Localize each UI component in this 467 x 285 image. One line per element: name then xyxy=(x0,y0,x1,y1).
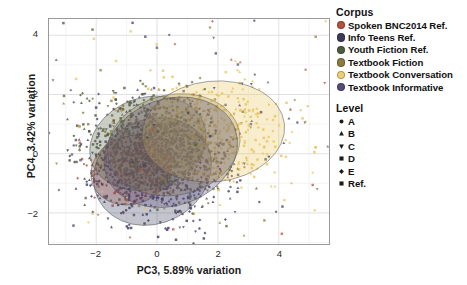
x-tick-label: −2 xyxy=(83,248,109,259)
legend-spacer xyxy=(334,93,467,102)
x-tick-label: 4 xyxy=(266,248,292,259)
legend-item-corpus[interactable]: Spoken BNC2014 Ref. xyxy=(334,19,467,31)
legend-shape-triangle-up-icon xyxy=(334,129,348,138)
y-tick-label: 0 xyxy=(16,148,38,159)
legend-group-level: ABCDERef. xyxy=(334,115,467,189)
legend-item-label: Youth Fiction Ref. xyxy=(348,44,428,55)
legend-item-label: D xyxy=(348,153,355,164)
y-axis-ticks: −2024 xyxy=(14,0,38,285)
legend-item-level[interactable]: E xyxy=(334,165,467,177)
legend-item-level[interactable]: A xyxy=(334,115,467,127)
x-tick-label: 2 xyxy=(205,248,231,259)
x-axis-ticks: −2024 xyxy=(0,248,467,264)
legend-shape-circle-icon xyxy=(334,117,348,126)
legend: Corpus Spoken BNC2014 Ref.Info Teens Ref… xyxy=(334,6,467,190)
legend-title-level: Level xyxy=(336,102,467,114)
legend-item-label: Textbook Conversation xyxy=(348,69,453,80)
legend-swatch-icon xyxy=(334,46,348,55)
legend-item-label: A xyxy=(348,116,355,127)
legend-swatch-icon xyxy=(334,83,348,92)
plot-canvas xyxy=(49,19,329,244)
legend-item-label: Ref. xyxy=(348,178,366,189)
legend-swatch-icon xyxy=(334,33,348,42)
legend-item-label: Textbook Fiction xyxy=(348,57,423,68)
legend-item-level[interactable]: D xyxy=(334,153,467,165)
legend-item-corpus[interactable]: Textbook Fiction xyxy=(334,56,467,68)
legend-shape-square-icon xyxy=(334,154,348,163)
legend-item-label: B xyxy=(348,128,355,139)
x-axis-label: PC3, 5.89% variation xyxy=(48,264,330,276)
legend-title-corpus: Corpus xyxy=(336,6,467,18)
legend-group-corpus: Spoken BNC2014 Ref.Info Teens Ref.Youth … xyxy=(334,19,467,93)
legend-item-corpus[interactable]: Youth Fiction Ref. xyxy=(334,44,467,56)
plot-area xyxy=(48,18,330,245)
legend-item-corpus[interactable]: Textbook Conversation xyxy=(334,69,467,81)
legend-item-corpus[interactable]: Textbook Informative xyxy=(334,81,467,93)
y-tick-label: 2 xyxy=(16,88,38,99)
legend-item-label: Spoken BNC2014 Ref. xyxy=(348,20,447,31)
legend-shape-triangle-down-icon xyxy=(334,142,348,151)
scatter-plot-figure: PC4, 3.42% variation −2024 −2024 PC3, 5.… xyxy=(0,0,467,285)
legend-item-label: E xyxy=(348,166,354,177)
legend-shape-square-small-icon xyxy=(334,179,348,188)
legend-item-label: C xyxy=(348,141,355,152)
legend-shape-diamond-icon xyxy=(334,167,348,176)
x-tick-label: 0 xyxy=(144,248,170,259)
y-tick-label: 4 xyxy=(16,28,38,39)
confidence-ellipses xyxy=(74,74,289,244)
legend-swatch-icon xyxy=(334,21,348,30)
legend-item-level[interactable]: Ref. xyxy=(334,177,467,189)
legend-item-level[interactable]: B xyxy=(334,128,467,140)
y-tick-label: −2 xyxy=(16,208,38,219)
legend-item-corpus[interactable]: Info Teens Ref. xyxy=(334,31,467,43)
legend-item-label: Info Teens Ref. xyxy=(348,32,415,43)
legend-swatch-icon xyxy=(334,58,348,67)
legend-item-label: Textbook Informative xyxy=(348,82,443,93)
legend-item-level[interactable]: C xyxy=(334,140,467,152)
legend-swatch-icon xyxy=(334,71,348,80)
